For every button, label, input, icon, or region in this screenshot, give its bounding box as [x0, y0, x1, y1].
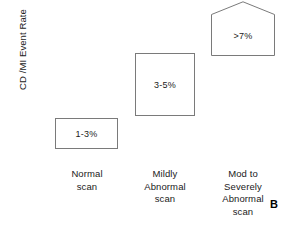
category-label-line: scan: [47, 181, 127, 194]
bar-normal-scan: 1-3%: [55, 118, 118, 149]
bar-value-label: >7%: [211, 1, 275, 56]
category-label-normal-scan: Normal scan: [47, 168, 127, 193]
category-label-line: Mildly: [125, 168, 205, 181]
category-label-mod-to-severely-abnormal-scan: Mod to Severely Abnormal scan: [203, 168, 283, 218]
category-label-line: Normal: [47, 168, 127, 181]
category-label-line: Abnormal: [125, 181, 205, 194]
category-label-line: Mod to: [203, 168, 283, 181]
y-axis-label: CD /MI Event Rate: [17, 0, 28, 120]
bar-mildly-abnormal-scan: 3-5%: [135, 53, 195, 116]
category-label-mildly-abnormal-scan: Mildly Abnormal scan: [125, 168, 205, 206]
category-label-line: scan: [125, 193, 205, 206]
chart-figure: CD /MI Event Rate 1-3% 3-5% >7% Normal s…: [0, 0, 289, 226]
panel-letter-label: B: [270, 198, 278, 210]
category-label-line: Severely: [203, 181, 283, 194]
bar-value-label: 1-3%: [76, 129, 98, 139]
bar-mod-to-severely-abnormal-scan: >7%: [211, 1, 275, 56]
bar-value-label: 3-5%: [154, 80, 176, 90]
